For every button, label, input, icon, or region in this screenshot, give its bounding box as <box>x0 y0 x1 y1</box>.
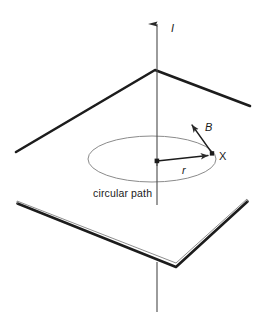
physics-diagram-figure: I B X r circular path <box>0 0 266 334</box>
radius-vector <box>155 156 208 164</box>
caption-circular-path: circular path <box>93 187 152 199</box>
upper-plane-front-edge <box>16 70 250 152</box>
lower-plane-front-edge <box>18 202 248 268</box>
lower-plane-right-cap <box>247 199 248 202</box>
center-marker <box>155 159 160 164</box>
label-radius: r <box>182 164 187 176</box>
radius-arrow <box>157 156 208 162</box>
upper-plane <box>16 70 250 152</box>
field-point-marker <box>210 151 214 155</box>
lower-plane <box>17 199 248 267</box>
lower-plane-highlight-edge <box>17 199 247 263</box>
label-field-point: X <box>219 150 227 162</box>
label-current: I <box>171 22 174 34</box>
label-magnetic-field: B <box>205 121 212 133</box>
circular-path-ellipse <box>88 136 216 182</box>
lower-plane-left-cap <box>17 201 18 204</box>
diagram-canvas: I B X r circular path <box>0 0 266 334</box>
